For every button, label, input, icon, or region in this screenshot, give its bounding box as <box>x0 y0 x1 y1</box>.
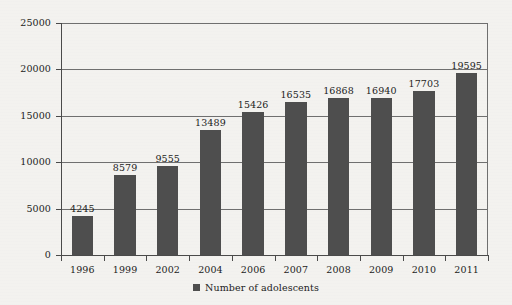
x-axis-category-label: 2009 <box>360 264 403 275</box>
bar <box>328 98 349 255</box>
bar <box>371 98 392 255</box>
bar-value-label: 4245 <box>61 203 104 214</box>
bar-value-label: 8579 <box>104 162 147 173</box>
chart-legend: Number of adolescents <box>0 282 512 293</box>
y-axis-tick-label: 15000 <box>0 110 51 121</box>
x-axis-category-label: 2011 <box>445 264 488 275</box>
bar-chart: 0500010000150002000025000 19961999200220… <box>0 0 512 305</box>
legend-swatch-icon <box>193 284 200 291</box>
x-axis-category-label: 2004 <box>189 264 232 275</box>
bar-value-label: 9555 <box>146 153 189 164</box>
x-axis-category-label: 2006 <box>232 264 275 275</box>
bar <box>114 175 135 255</box>
bar <box>413 91 434 255</box>
x-axis-category-label: 2008 <box>317 264 360 275</box>
y-axis-tick-label: 25000 <box>0 17 51 28</box>
bar-value-label: 19595 <box>445 60 488 71</box>
bar <box>72 216 93 255</box>
bar-value-label: 17703 <box>403 78 446 89</box>
y-axis-tick-label: 5000 <box>0 203 51 214</box>
bar-value-label: 16868 <box>317 85 360 96</box>
bar-value-label: 16535 <box>275 89 318 100</box>
legend-label: Number of adolescents <box>205 282 319 293</box>
bar-value-label: 13489 <box>189 117 232 128</box>
x-axis-category-label: 2007 <box>275 264 318 275</box>
y-axis-tick-label: 10000 <box>0 156 51 167</box>
x-axis-category-label: 1999 <box>104 264 147 275</box>
bar <box>200 130 221 255</box>
bar-value-label: 16940 <box>360 85 403 96</box>
x-axis-category-label: 2010 <box>403 264 446 275</box>
bar <box>456 73 477 255</box>
bar-value-label: 15426 <box>232 99 275 110</box>
x-axis-category-label: 2002 <box>146 264 189 275</box>
x-axis-category-label: 1996 <box>61 264 104 275</box>
y-axis-tick-label: 0 <box>0 249 51 260</box>
y-axis-tick-label: 20000 <box>0 63 51 74</box>
bar <box>285 102 306 255</box>
bar <box>157 166 178 255</box>
bar <box>242 112 263 255</box>
